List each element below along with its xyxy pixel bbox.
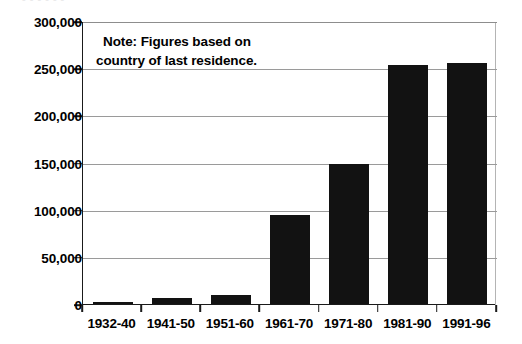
x-tick-mark-4 xyxy=(318,305,320,312)
x-axis-label-1991-96: 1991-96 xyxy=(442,316,490,331)
bar-chart-figure: - - - - - - 050,000100,000150,000200,000… xyxy=(0,0,522,344)
bar-1961-70 xyxy=(270,215,310,304)
x-axis-label-1971-80: 1971-80 xyxy=(324,316,372,331)
bar-1941-50 xyxy=(152,298,192,304)
x-tick-mark-2 xyxy=(199,305,201,312)
y-axis-label-200000: 200,000 xyxy=(8,109,82,124)
chart-note-line-2: country of last residence. xyxy=(96,51,257,70)
x-axis-label-1981-90: 1981-90 xyxy=(383,316,431,331)
x-tick-mark-1 xyxy=(140,305,142,312)
x-axis-label-1961-70: 1961-70 xyxy=(265,316,313,331)
bar-1981-90 xyxy=(388,65,428,304)
bar-1991-96 xyxy=(447,63,487,304)
chart-note-annotation: Note: Figures based on country of last r… xyxy=(103,32,257,70)
y-axis-label-0: 0 xyxy=(8,298,82,313)
bar-1951-60 xyxy=(211,295,251,304)
y-axis-label-250000: 250,000 xyxy=(8,62,82,77)
y-axis-label-100000: 100,000 xyxy=(8,203,82,218)
gridline-200000 xyxy=(83,116,497,117)
y-axis-label-300000: 300,000 xyxy=(8,15,82,30)
y-axis: 050,000100,000150,000200,000250,000300,0… xyxy=(0,0,82,344)
x-axis: 1932-401941-501951-601961-701971-801981-… xyxy=(82,305,496,344)
x-tick-mark-6 xyxy=(436,305,438,312)
y-axis-label-150000: 150,000 xyxy=(8,156,82,171)
y-axis-label-50000: 50,000 xyxy=(8,250,82,265)
gridline-300000 xyxy=(83,22,497,23)
bar-1971-80 xyxy=(329,164,369,304)
gridline-150000 xyxy=(83,164,497,165)
x-tick-mark-7 xyxy=(495,305,497,312)
x-axis-label-1951-60: 1951-60 xyxy=(206,316,254,331)
bar-1932-40 xyxy=(93,302,133,304)
x-axis-label-1932-40: 1932-40 xyxy=(87,316,135,331)
x-tick-mark-3 xyxy=(259,305,261,312)
gridline-100000 xyxy=(83,211,497,212)
x-tick-mark-0 xyxy=(81,305,83,312)
x-axis-label-1941-50: 1941-50 xyxy=(147,316,195,331)
chart-note-line-1: Note: Figures based on xyxy=(103,32,257,51)
x-tick-mark-5 xyxy=(377,305,379,312)
